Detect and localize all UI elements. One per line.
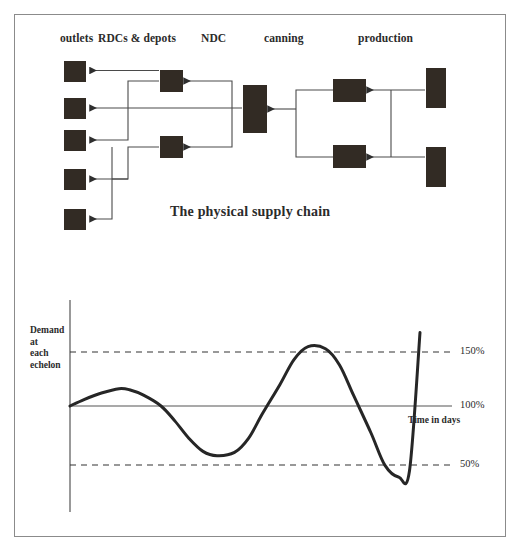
y-axis-label-line-3: each: [30, 348, 64, 360]
chart-y-axis-label: Demand at each echelon: [30, 325, 64, 371]
tick-label-50: 50%: [460, 458, 479, 469]
y-axis-label-line-1: Demand: [30, 325, 64, 337]
tick-label-150: 150%: [460, 345, 485, 356]
figure-root: outlets RDCs & depots NDC canning produc…: [0, 0, 522, 555]
demand-curve-line: [70, 333, 420, 484]
chart-x-axis-label: Time in days: [408, 415, 460, 425]
demand-amplification-chart: [0, 0, 522, 555]
y-axis-label-line-4: echelon: [30, 360, 64, 372]
tick-label-100: 100%: [460, 399, 485, 410]
y-axis-label-line-2: at: [30, 337, 64, 349]
